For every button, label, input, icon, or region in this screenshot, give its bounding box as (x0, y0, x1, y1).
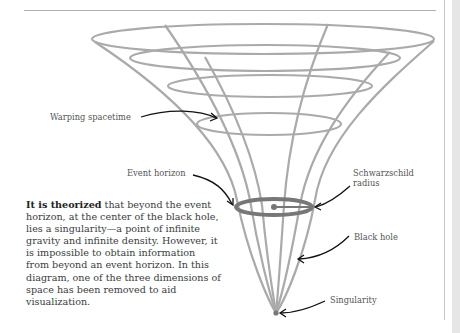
arrow-singularity (281, 301, 325, 313)
spacetime-ring-1 (92, 24, 434, 54)
arrow-warping-spacetime (141, 111, 216, 118)
arrow-schwarzschild (316, 186, 350, 207)
label-schwarzschild-line1: Schwarzschild (353, 168, 414, 178)
center-point (271, 204, 277, 210)
description-paragraph: It is theorized that beyond the event ho… (26, 199, 221, 308)
label-warping-spacetime: Warping spacetime (50, 112, 131, 122)
spacetime-ring-2 (130, 45, 400, 71)
description-body: that beyond the event horizon, at the ce… (26, 199, 221, 307)
label-event-horizon: Event horizon (127, 168, 186, 178)
label-schwarzschild-line2: radius (353, 178, 414, 188)
label-singularity: Singularity (330, 295, 377, 305)
singularity-point (273, 310, 278, 315)
label-black-hole: Black hole (354, 232, 398, 242)
description-lead: It is theorized (26, 199, 102, 210)
label-schwarzschild-radius: Schwarzschild radius (353, 168, 414, 188)
meridian-3 (276, 24, 328, 313)
